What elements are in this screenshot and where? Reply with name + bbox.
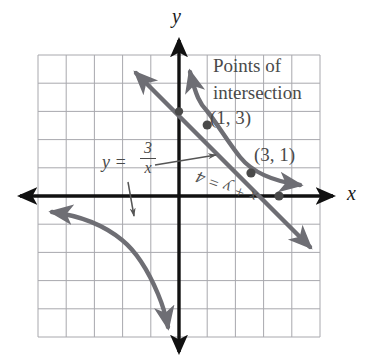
- hyperbola-equation-fraction: 3 x: [140, 140, 156, 177]
- hyperbola-label-leader-arrow-down: [128, 182, 134, 216]
- fraction-denominator: x: [140, 160, 156, 177]
- hyperbola-label-leader-arrow: [155, 155, 216, 165]
- curve-hyperbola-branch-q3: [52, 212, 168, 327]
- figure-canvas: y x Points of intersection (1, 3) (3, 1)…: [0, 0, 373, 364]
- x-axis-label: x: [347, 183, 356, 203]
- point-label-1-3: (1, 3): [210, 108, 251, 127]
- marked-point-0-4: [175, 107, 183, 115]
- y-axis-label: y: [172, 6, 181, 26]
- fraction-numerator: 3: [140, 140, 156, 157]
- points-of-intersection-label-line2: intersection: [213, 83, 302, 102]
- hyperbola-equation-lhs: y =: [102, 152, 127, 173]
- intersection-point-3-1: [246, 168, 255, 177]
- point-label-3-1: (3, 1): [254, 145, 295, 164]
- curves-layer: [0, 0, 373, 364]
- points-of-intersection-label-line1: Points of: [213, 56, 281, 75]
- marked-point-4-0: [274, 191, 283, 200]
